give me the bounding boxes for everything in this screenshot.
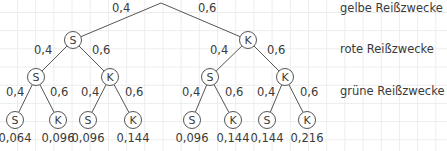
edge-probability-label: 0,4 [6,85,24,99]
svg-text:K: K [281,71,289,84]
svg-text:S: S [70,34,77,47]
svg-text:S: S [189,114,196,127]
node-k: K [240,32,257,49]
edge-probability-label: 0,6 [125,85,143,99]
svg-text:S: S [207,71,214,84]
edge-probability-label: 0,6 [300,85,318,99]
node-s: S [259,112,276,129]
svg-text:S: S [33,71,40,84]
svg-text:K: K [229,114,237,127]
node-k: K [299,112,316,129]
edge-probability-label: 0,4 [182,85,200,99]
path-probability-result: 0,144 [217,131,250,145]
path-probability-result: 0,096 [42,131,75,145]
path-probability-result: 0,144 [117,131,150,145]
edge-probability-label: 0,6 [225,85,243,99]
edge-probability-label: 0,4 [257,85,275,99]
path-probability-result: 0,216 [291,131,324,145]
node-s: S [80,112,97,129]
node-k: K [277,69,294,86]
edge-probability-label: 0,4 [210,43,228,57]
svg-text:S: S [264,114,271,127]
svg-text:K: K [129,114,137,127]
level-label-gelbe: gelbe Reißzwecke [340,1,443,15]
path-probability-result: 0,096 [176,131,209,145]
svg-text:K: K [244,34,252,47]
node-s: S [65,32,82,49]
edge-probability-label: 0,4 [81,85,99,99]
node-k: K [125,112,142,129]
svg-text:K: K [54,114,62,127]
node-s: S [28,69,45,86]
path-probability-result: 0,064 [0,131,31,145]
path-probability-result: 0,144 [251,131,284,145]
edge-probability-label: 0,6 [198,1,216,15]
svg-text:K: K [106,71,114,84]
node-s: S [7,112,24,129]
edge-probability-label: 0,4 [112,1,130,15]
edge-probability-label: 0,6 [50,85,68,99]
edge-probability-label: 0,6 [92,43,110,57]
probability-tree: 0,40,60,40,60,40,60,40,60,40,60,40,60,40… [0,0,447,151]
path-probability-result: 0,096 [72,131,105,145]
level-label-rote: rote Reißzwecke [340,42,434,56]
edge-probability-label: 0,6 [267,43,285,57]
edge-probability-label: 0,4 [34,43,52,57]
node-s: S [202,69,219,86]
node-k: K [50,112,67,129]
level-label-gruene: grüne Reißzwecke [340,84,445,98]
svg-text:S: S [12,114,19,127]
node-s: S [184,112,201,129]
node-k: K [102,69,119,86]
svg-text:S: S [85,114,92,127]
node-k: K [225,112,242,129]
svg-text:K: K [303,114,311,127]
